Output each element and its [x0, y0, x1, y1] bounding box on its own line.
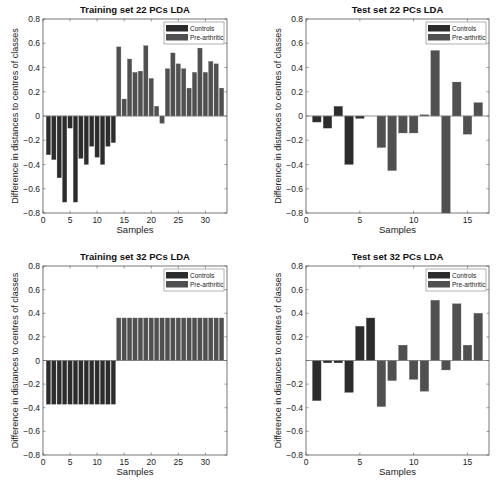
- x-axis-label: Samples: [379, 466, 416, 477]
- bar-pre-arthritic-32: [214, 318, 218, 361]
- bar-pre-arthritic-21: [154, 106, 158, 116]
- y-tick-label: −0.2: [286, 379, 303, 389]
- bar-pre-arthritic-23: [165, 318, 169, 361]
- x-tick-label: 5: [357, 215, 362, 225]
- bar-pre-arthritic-12: [431, 51, 440, 116]
- bar-pre-arthritic-25: [176, 318, 180, 361]
- y-axis-label: Difference in distances to centres of cl…: [273, 272, 283, 448]
- bar-pre-arthritic-29: [198, 48, 202, 116]
- bar-pre-arthritic-33: [219, 318, 223, 361]
- bar-pre-arthritic-24: [171, 53, 175, 116]
- bar-controls-3: [334, 106, 343, 116]
- bar-pre-arthritic-7: [377, 361, 386, 407]
- bar-pre-arthritic-15: [463, 345, 472, 360]
- legend-swatch-controls: [166, 25, 188, 32]
- legend-label: Pre-arthritic: [190, 281, 224, 288]
- bar-pre-arthritic-14: [452, 82, 461, 116]
- chart-title: Training set 22 PCs LDA: [80, 4, 190, 15]
- y-tick-label: −0.6: [23, 184, 40, 194]
- x-axis-label: Samples: [379, 224, 416, 235]
- bar-pre-arthritic-30: [203, 318, 207, 361]
- bar-controls-1: [312, 361, 321, 401]
- legend-label: Controls: [452, 25, 477, 32]
- bar-pre-arthritic-13: [442, 361, 451, 370]
- chart-title: Test set 32 PCs LDA: [352, 251, 444, 262]
- y-tick-label: 0.4: [28, 63, 40, 73]
- y-tick-label: 0.2: [291, 87, 303, 97]
- bar-pre-arthritic-13: [442, 116, 451, 213]
- legend-label: Controls: [190, 272, 215, 279]
- x-tick-label: 25: [174, 215, 184, 225]
- legend-label: Pre-arthritic: [452, 34, 486, 41]
- x-tick-label: 5: [68, 215, 73, 225]
- legend-swatch-controls: [428, 272, 450, 279]
- x-axis-label: Samples: [117, 224, 154, 235]
- bar-pre-arthritic-14: [117, 47, 121, 116]
- bar-pre-arthritic-20: [149, 78, 153, 116]
- bar-pre-arthritic-8: [388, 116, 397, 171]
- y-tick-label: 0.6: [28, 38, 40, 48]
- x-tick-label: 5: [68, 457, 73, 467]
- legend-swatch-pre-arthritic: [428, 281, 450, 288]
- bar-pre-arthritic-22: [160, 318, 164, 361]
- x-tick-label: 30: [201, 457, 211, 467]
- bar-pre-arthritic-17: [133, 72, 137, 116]
- y-tick-label: 0: [35, 356, 40, 366]
- legend-swatch-controls: [166, 272, 188, 279]
- bar-controls-6: [73, 361, 77, 405]
- x-tick-label: 0: [304, 457, 309, 467]
- bar-pre-arthritic-31: [209, 61, 213, 116]
- y-axis-label: Difference in distances to centres of cl…: [10, 272, 20, 448]
- y-tick-label: 0: [35, 111, 40, 121]
- x-axis-label: Samples: [117, 466, 154, 477]
- y-tick-label: −0.4: [23, 160, 40, 170]
- bar-pre-arthritic-26: [182, 318, 186, 361]
- bar-controls-13: [111, 361, 115, 405]
- bar-controls-8: [84, 116, 88, 165]
- legend: ControlsPre-arthritic: [164, 22, 224, 44]
- y-tick-label: 0.8: [291, 14, 303, 24]
- bar-pre-arthritic-17: [133, 318, 137, 361]
- bar-controls-9: [90, 116, 94, 146]
- bar-pre-arthritic-15: [122, 318, 126, 361]
- y-tick-label: −0.8: [286, 208, 303, 218]
- bar-controls-1: [46, 116, 50, 155]
- y-tick-label: 0.6: [291, 285, 303, 295]
- legend: ControlsPre-arthritic: [426, 269, 486, 291]
- x-tick-label: 10: [92, 457, 102, 467]
- bar-pre-arthritic-28: [192, 72, 196, 116]
- y-tick-label: −0.4: [23, 403, 40, 413]
- bar-pre-arthritic-19: [144, 318, 148, 361]
- bar-pre-arthritic-14: [117, 318, 121, 361]
- bar-controls-2: [52, 361, 56, 405]
- bar-controls-12: [106, 361, 110, 405]
- figure-canvas: Training set 22 PCs LDA0.80.60.40.20−0.2…: [0, 0, 496, 493]
- bar-pre-arthritic-30: [203, 72, 207, 116]
- y-tick-label: 0.4: [291, 63, 303, 73]
- y-axis-label: Difference in distances to centres of cl…: [273, 28, 283, 204]
- x-tick-label: 5: [357, 457, 362, 467]
- legend-label: Pre-arthritic: [190, 34, 224, 41]
- legend-swatch-pre-arthritic: [166, 281, 188, 288]
- bar-pre-arthritic-21: [154, 318, 158, 361]
- chart-train22: Training set 22 PCs LDA0.80.60.40.20−0.2…: [10, 4, 227, 235]
- y-tick-label: −0.2: [23, 135, 40, 145]
- bar-controls-1: [312, 116, 321, 122]
- bar-pre-arthritic-9: [399, 116, 408, 133]
- bar-pre-arthritic-16: [474, 103, 483, 116]
- x-tick-label: 25: [174, 457, 184, 467]
- x-tick-label: 30: [201, 215, 211, 225]
- bar-controls-4: [345, 361, 354, 393]
- x-tick-label: 0: [41, 215, 46, 225]
- bar-controls-5: [356, 326, 365, 360]
- x-tick-label: 10: [92, 215, 102, 225]
- bar-controls-3: [57, 116, 61, 178]
- y-axis-label: Difference in distances to centres of cl…: [10, 28, 20, 204]
- bar-controls-11: [100, 361, 104, 405]
- bar-controls-5: [68, 361, 72, 405]
- y-tick-label: −0.8: [286, 450, 303, 460]
- bar-pre-arthritic-25: [176, 64, 180, 116]
- y-tick-label: 0.2: [291, 332, 303, 342]
- bar-pre-arthritic-8: [388, 361, 397, 381]
- y-tick-label: −0.6: [286, 184, 303, 194]
